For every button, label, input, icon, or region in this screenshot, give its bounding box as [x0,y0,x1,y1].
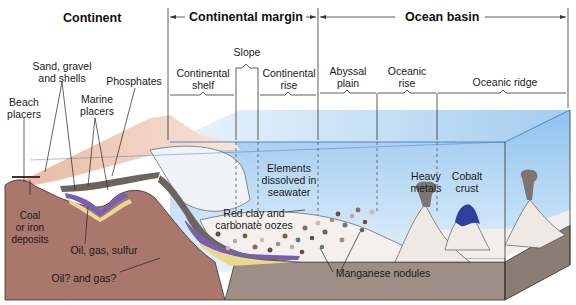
callout-beach-placers: Beach placers [4,96,44,120]
zone-label-line: shelf [172,79,234,91]
callout-line: Sand, gravel [28,60,96,72]
callout-line: metals [407,182,445,194]
ocean-resources-diagram: Continent Continental margin Ocean basin… [0,0,576,305]
callout-sand-gravel-shells: Sand, gravel and shells [28,60,96,84]
callout-line: deposits [6,234,54,246]
callout-line: Manganese nodules [328,267,438,279]
callout-elements-dissolved: Elements dissolved in seawater [256,162,322,198]
zone-label-line: Oceanic [380,65,434,77]
callout-coal-iron-deposits: Coal or iron deposits [6,210,54,246]
callout-line: crust [448,182,486,194]
zone-continental-rise: Continental rise [258,67,320,91]
zone-slope: Slope [232,46,262,58]
callout-line: placers [76,105,118,117]
callout-line: Elements [256,162,322,174]
zone-label-line: Continental [258,67,320,79]
callout-line: Phosphates [104,75,164,87]
header-ocean-basin: Ocean basin [402,10,482,24]
callout-line: Marine [76,93,118,105]
callout-line: seawater [256,186,322,198]
callout-marine-placers: Marine placers [76,93,118,117]
water-surface [170,110,570,142]
zone-label-line: Abyssal [320,65,376,77]
callout-cobalt-crust: Cobalt crust [448,170,486,194]
callout-line: Beach [4,96,44,108]
callout-oil-gas-possible: Oil? and gas? [48,272,120,284]
callout-line: carbonate oozes [212,219,296,231]
header-continent: Continent [60,11,124,25]
callout-phosphates: Phosphates [104,75,164,87]
zone-oceanic-ridge: Oceanic ridge [460,76,550,88]
header-continental-margin: Continental margin [186,10,306,24]
callout-line: Oil, gas, sulfur [62,244,146,256]
zone-label-line: Continental [172,67,234,79]
callout-line: Coal [6,210,54,222]
callout-oil-gas-sulfur: Oil, gas, sulfur [62,244,146,256]
callout-line: placers [4,108,44,120]
zone-oceanic-rise: Oceanic rise [380,65,434,89]
callout-line: Red clay and [212,207,296,219]
callout-line: and shells [28,72,96,84]
zone-label-line: plain [320,77,376,89]
callout-line: or iron [6,222,54,234]
zone-continental-shelf: Continental shelf [172,67,234,91]
callout-red-clay-oozes: Red clay and carbonate oozes [212,207,296,231]
callout-heavy-metals: Heavy metals [407,170,445,194]
callout-manganese-nodules: Manganese nodules [328,267,438,279]
zone-abyssal-plain: Abyssal plain [320,65,376,89]
zone-label-line: rise [380,77,434,89]
callout-line: dissolved in [256,174,322,186]
callout-line: Cobalt [448,170,486,182]
zone-label-line: Oceanic ridge [460,76,550,88]
zone-label-line: rise [258,79,320,91]
zone-label-line: Slope [232,46,262,58]
callout-line: Oil? and gas? [48,272,120,284]
cross-section-illustration [0,0,576,305]
callout-line: Heavy [407,170,445,182]
